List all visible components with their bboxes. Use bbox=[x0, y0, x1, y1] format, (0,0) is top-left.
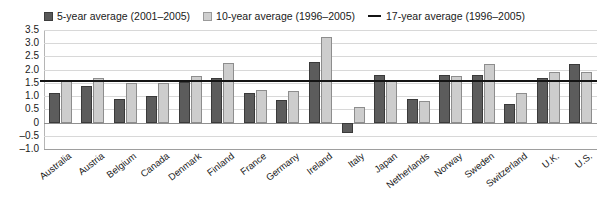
x-axis-label-text: Australia bbox=[38, 151, 73, 181]
bar-switzerland-series-1 bbox=[516, 93, 527, 122]
bar-group bbox=[369, 30, 402, 149]
y-axis-tick-label: –1.0 bbox=[20, 144, 39, 154]
x-axis-label-text: U.K. bbox=[541, 151, 561, 170]
bar-finland-series-1 bbox=[223, 63, 234, 123]
legend-item-2: 17-year average (1996–2005) bbox=[368, 11, 525, 22]
x-axis-label-text: Japan bbox=[372, 151, 398, 174]
bar-austria-series-1 bbox=[93, 78, 104, 123]
bar-italy-series-0 bbox=[342, 123, 353, 134]
legend-item-0: 5-year average (2001–2005) bbox=[44, 11, 190, 22]
bar-germany-series-1 bbox=[288, 91, 299, 123]
bar-netherlands-series-0 bbox=[407, 99, 418, 123]
y-axis-tick-label: 2.0 bbox=[25, 65, 39, 75]
bar-denmark-series-0 bbox=[179, 82, 190, 123]
bar-group bbox=[337, 30, 370, 149]
bar-germany-series-0 bbox=[276, 100, 287, 122]
bar-denmark-series-1 bbox=[191, 76, 202, 122]
y-axis-labels: 3.53.02.52.01.51.00.50–0.5–1.0 bbox=[0, 30, 42, 149]
x-axis-label-text: Finland bbox=[205, 151, 235, 178]
bar-ireland-series-0 bbox=[309, 62, 320, 123]
y-axis-tick-label: 3.0 bbox=[25, 38, 39, 48]
legend-item-label: 5-year average (2001–2005) bbox=[57, 11, 190, 22]
bar-belgium-series-0 bbox=[114, 99, 125, 123]
black-line-swatch-icon bbox=[368, 15, 381, 17]
y-axis-tick-label: 3.5 bbox=[25, 25, 39, 35]
bar-group bbox=[44, 30, 77, 149]
average-reference-line bbox=[40, 80, 597, 82]
y-axis-tick-label: 2.5 bbox=[25, 51, 39, 61]
bar-group bbox=[402, 30, 435, 149]
y-axis-tick-label: 1.5 bbox=[25, 78, 39, 88]
bar-canada-series-1 bbox=[158, 83, 169, 123]
bar-australia-series-1 bbox=[61, 80, 72, 122]
bar-canada-series-0 bbox=[146, 96, 157, 122]
x-axis-label-text: Italy bbox=[346, 151, 366, 169]
y-axis-tick-label: 0 bbox=[33, 118, 39, 128]
bar-australia-series-0 bbox=[49, 93, 60, 122]
x-axis-label-text: Belgium bbox=[105, 151, 138, 180]
bar-france-series-0 bbox=[244, 93, 255, 122]
legend-item-label: 10-year average (1996–2005) bbox=[216, 11, 355, 22]
x-axis-label-text: U.S. bbox=[573, 151, 593, 170]
bar-group bbox=[239, 30, 272, 149]
x-axis-label-text: Norway bbox=[432, 151, 463, 178]
bar-austria-series-0 bbox=[81, 86, 92, 123]
x-axis-label-text: Austria bbox=[76, 151, 105, 177]
bar-norway-series-1 bbox=[451, 76, 462, 122]
y-axis-tick-label: 0.5 bbox=[25, 104, 39, 114]
bar-group bbox=[109, 30, 142, 149]
x-axis-label-text: Ireland bbox=[305, 151, 334, 176]
dark-square-swatch-icon bbox=[44, 12, 53, 21]
bar-france-series-1 bbox=[256, 90, 267, 123]
bar-u-k--series-0 bbox=[537, 78, 548, 123]
y-axis-tick-label: –0.5 bbox=[20, 131, 39, 141]
bar-group bbox=[564, 30, 597, 149]
bar-belgium-series-1 bbox=[126, 83, 137, 123]
bar-japan-series-1 bbox=[386, 80, 397, 122]
bar-switzerland-series-0 bbox=[504, 104, 515, 123]
bar-netherlands-series-1 bbox=[419, 101, 430, 122]
light-square-swatch-icon bbox=[203, 12, 212, 21]
bar-finland-series-0 bbox=[211, 78, 222, 123]
bar-u-s--series-0 bbox=[569, 64, 580, 122]
bar-italy-series-1 bbox=[354, 107, 365, 123]
chart-legend: 5-year average (2001–2005)10-year averag… bbox=[44, 11, 525, 22]
y-axis-tick-label: 1.0 bbox=[25, 91, 39, 101]
legend-item-label: 17-year average (1996–2005) bbox=[386, 11, 525, 22]
legend-item-1: 10-year average (1996–2005) bbox=[203, 11, 355, 22]
x-axis-labels: AustraliaAustriaBelgiumCanadaDenmarkFinl… bbox=[44, 149, 597, 205]
bar-group bbox=[272, 30, 305, 149]
bar-sweden-series-1 bbox=[484, 64, 495, 122]
